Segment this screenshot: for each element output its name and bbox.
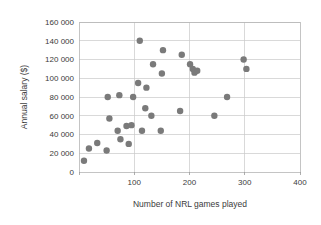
- data-point: [116, 92, 122, 98]
- y-axis-title: Annual salary ($): [19, 65, 29, 129]
- x-axis-tick-labels: 100200300400: [128, 178, 308, 187]
- data-point: [240, 56, 246, 62]
- x-axis-ticks: [79, 172, 300, 175]
- y-tick-label: 20 000: [50, 149, 75, 158]
- data-point: [194, 68, 200, 74]
- data-point: [177, 108, 183, 114]
- data-point: [139, 128, 145, 134]
- data-point: [128, 122, 134, 128]
- data-point: [158, 128, 164, 134]
- x-tick-label: 100: [128, 178, 142, 187]
- x-tick-label: 400: [293, 178, 307, 187]
- data-point: [211, 113, 217, 119]
- data-point: [224, 94, 230, 100]
- chart-canvas: 020 00040 00060 00080 000100 000120 0001…: [0, 0, 321, 225]
- scatter-chart: 020 00040 00060 00080 000100 000120 0001…: [0, 0, 321, 225]
- data-point: [160, 47, 166, 53]
- data-point: [105, 94, 111, 100]
- y-tick-label: 80 000: [50, 93, 75, 102]
- data-point: [143, 84, 149, 90]
- data-point: [106, 115, 112, 121]
- data-point: [243, 66, 249, 72]
- y-tick-label: 0: [70, 168, 75, 177]
- y-tick-label: 160 000: [45, 18, 74, 27]
- data-point: [135, 80, 141, 86]
- data-point: [114, 128, 120, 134]
- data-point: [126, 141, 132, 147]
- y-tick-label: 140 000: [45, 37, 74, 46]
- data-point: [137, 38, 143, 44]
- x-axis-title: Number of NRL games played: [133, 199, 247, 209]
- x-tick-label: 300: [238, 178, 252, 187]
- data-points: [81, 38, 250, 164]
- data-point: [103, 147, 109, 153]
- data-point: [142, 105, 148, 111]
- y-tick-label: 100 000: [45, 74, 74, 83]
- data-point: [130, 94, 136, 100]
- data-point: [94, 140, 100, 146]
- data-point: [179, 52, 185, 58]
- data-point: [81, 158, 87, 164]
- data-point: [86, 145, 92, 151]
- y-tick-label: 60 000: [50, 112, 75, 121]
- x-tick-label: 200: [183, 178, 197, 187]
- gridlines: [79, 22, 300, 172]
- data-point: [159, 70, 165, 76]
- y-tick-label: 40 000: [50, 130, 75, 139]
- data-point: [117, 136, 123, 142]
- y-axis-tick-labels: 020 00040 00060 00080 000100 000120 0001…: [45, 18, 74, 177]
- data-point: [148, 113, 154, 119]
- data-point: [150, 61, 156, 67]
- y-tick-label: 120 000: [45, 55, 74, 64]
